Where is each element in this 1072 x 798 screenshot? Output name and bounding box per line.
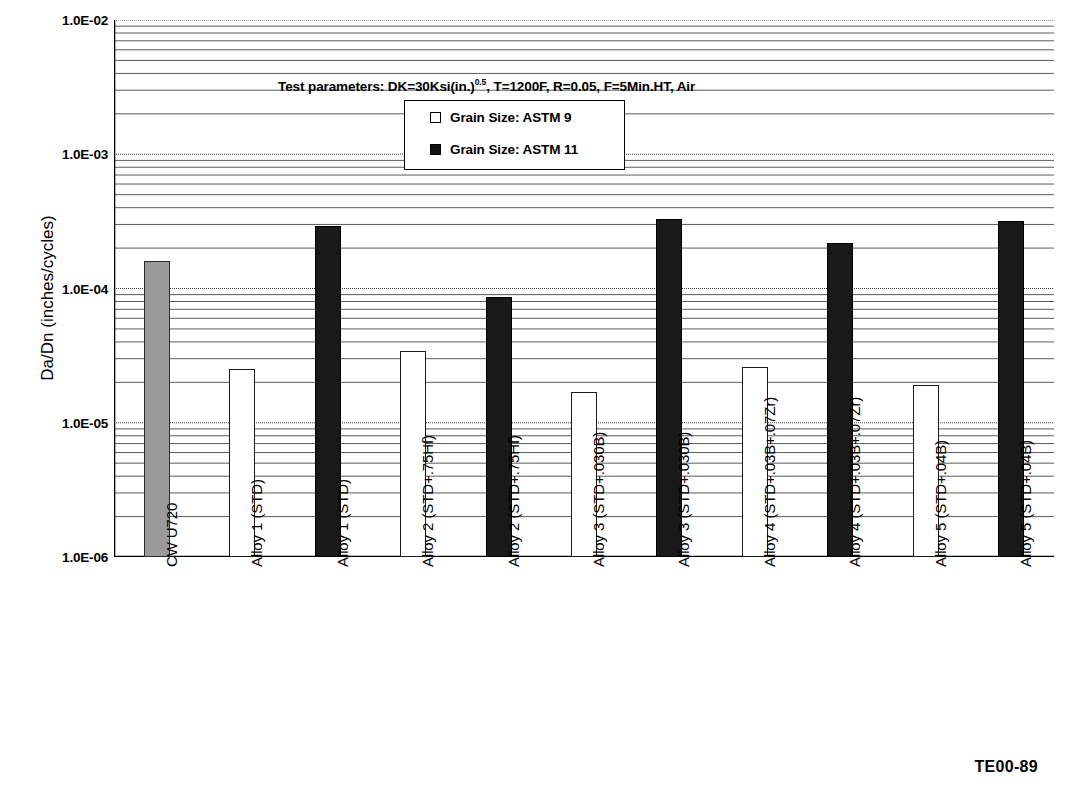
x-axis-tick-label: Alloy 4 (STD+.03B+.07Zr): [761, 397, 778, 567]
y-axis-tick-label: 1.0E-04: [8, 281, 108, 296]
test-parameters-exponent: 0.5: [475, 77, 487, 87]
y-axis-tick-labels: 1.0E-021.0E-031.0E-041.0E-051.0E-06: [0, 0, 108, 798]
y-axis-tick-label: 1.0E-03: [8, 147, 108, 162]
y-axis-tick-label: 1.0E-05: [8, 415, 108, 430]
x-axis-tick-label: Alloy 1 (STD): [248, 479, 265, 567]
legend-swatch-icon: [430, 112, 441, 123]
legend-label: Grain Size: ASTM 9: [450, 110, 571, 125]
footer-code: TE00-89: [975, 758, 1038, 776]
test-parameters-suffix: , T=1200F, R=0.05, F=5Min.HT, Air: [486, 79, 695, 94]
x-axis-tick-label: Alloy 3 (STD+.030B): [590, 432, 607, 567]
x-axis-tick-label: CW U720: [163, 503, 180, 567]
y-axis-tick-label: 1.0E-06: [8, 550, 108, 565]
legend-label: Grain Size: ASTM 11: [450, 142, 578, 157]
legend: Grain Size: ASTM 9 Grain Size: ASTM 11: [404, 100, 625, 170]
x-axis-tick-label: Alloy 3 (STD+.030B): [675, 432, 692, 567]
y-axis-tick-label: 1.0E-02: [8, 13, 108, 28]
x-axis-tick-label: Alloy 4 (STD+.03B+.07Zr): [846, 397, 863, 567]
x-axis-tick-label: Alloy 2 (STD+.75Hf): [419, 435, 436, 567]
x-axis-tick-label: Alloy 1 (STD): [334, 479, 351, 567]
x-axis-tick-labels: CW U720Alloy 1 (STD)Alloy 1 (STD)Alloy 2…: [114, 557, 1054, 787]
legend-entry-astm-9: Grain Size: ASTM 9: [430, 110, 571, 125]
test-parameters-annotation: Test parameters: DK=30Ksi(in.)0.5, T=120…: [278, 77, 695, 94]
x-axis-tick-label: Alloy 5 (STD+.04B): [1017, 440, 1034, 567]
x-axis-tick-label: Alloy 5 (STD+.04B): [932, 440, 949, 567]
legend-swatch-icon: [430, 144, 441, 155]
legend-entry-astm-11: Grain Size: ASTM 11: [430, 142, 578, 157]
bar-chart: Da/Dn (inches/cycles) 1.0E-021.0E-031.0E…: [0, 0, 1072, 798]
x-axis-tick-label: Alloy 2 (STD+.75Hf): [505, 435, 522, 567]
test-parameters-prefix: Test parameters: DK=30Ksi(in.): [278, 79, 475, 94]
